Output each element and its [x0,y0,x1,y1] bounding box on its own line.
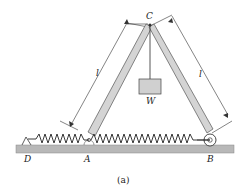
label-l-left: l [96,68,99,78]
weight [139,79,161,94]
label-l-right: l [199,69,202,79]
caption: (a) [117,175,129,185]
pin-c [148,23,151,26]
truss-spring-diagram: C W l l D A B (a) [0,0,249,189]
label-d: D [23,154,31,164]
spring-da [36,134,89,143]
support-d [22,137,31,145]
dimension-right [152,15,232,133]
label-w: W [146,96,156,106]
label-b: B [206,154,214,164]
ground [16,145,234,153]
bar-bc [149,24,213,133]
label-a: A [83,154,91,164]
label-c: C [146,11,153,21]
spring-ab [91,134,197,143]
